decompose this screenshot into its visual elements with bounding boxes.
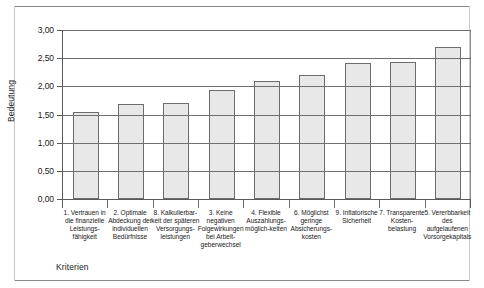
category-label: 6. Möglichst geringe Absicherungs-kosten bbox=[287, 209, 336, 241]
y-axis-tick bbox=[57, 115, 63, 116]
y-gridline bbox=[63, 86, 471, 87]
figure-top-rule bbox=[14, 6, 470, 7]
category-separator bbox=[334, 200, 335, 208]
y-gridline bbox=[63, 115, 471, 116]
category-separator bbox=[379, 200, 380, 208]
figure-bottom-rule bbox=[14, 280, 470, 281]
bar bbox=[73, 112, 99, 199]
y-axis-title: Bedeutung bbox=[6, 80, 16, 122]
y-axis-tick bbox=[57, 58, 63, 59]
y-axis-tick-label: 0,00 bbox=[38, 195, 54, 204]
y-gridline bbox=[63, 58, 471, 59]
y-axis-tick-label: 0,50 bbox=[38, 167, 54, 176]
category-separator bbox=[107, 200, 108, 208]
y-axis-tick-label: 1,50 bbox=[38, 110, 54, 119]
y-axis-tick bbox=[57, 86, 63, 87]
bar bbox=[209, 90, 235, 199]
y-gridline bbox=[63, 30, 471, 31]
y-axis-tick-label: 1,00 bbox=[38, 138, 54, 147]
category-label: 4. Flexible Auszahlungs-möglich-keiten bbox=[241, 209, 290, 233]
y-axis-tick bbox=[57, 143, 63, 144]
bar bbox=[299, 75, 325, 199]
category-separator bbox=[153, 200, 154, 208]
y-axis-tick-label: 2,50 bbox=[38, 54, 54, 63]
y-axis-tick-label: 2,00 bbox=[38, 82, 54, 91]
category-separator bbox=[62, 200, 63, 208]
category-label: 7. Transparente Kosten-belastung bbox=[377, 209, 426, 233]
y-axis-tick bbox=[57, 171, 63, 172]
figure-left-rule bbox=[14, 6, 15, 281]
category-axis: 1. Vertrauen in die finanzielle Leistung… bbox=[62, 200, 470, 252]
category-label: 2. Optimale Abdeckung der individuellen … bbox=[105, 209, 154, 241]
y-gridline bbox=[63, 143, 471, 144]
bar bbox=[163, 103, 189, 199]
bar bbox=[345, 63, 371, 199]
category-separator bbox=[289, 200, 290, 208]
plot-area: 0,000,501,001,502,002,503,00 bbox=[62, 30, 471, 200]
bar bbox=[118, 104, 144, 199]
y-axis-tick bbox=[57, 30, 63, 31]
category-separator bbox=[243, 200, 244, 208]
category-separator bbox=[425, 200, 426, 208]
y-gridline bbox=[63, 171, 471, 172]
chart-figure: Bedeutung 0,000,501,001,502,002,503,00 1… bbox=[0, 0, 484, 288]
category-label: 9. Inflatorische Sicherheit bbox=[332, 209, 381, 225]
bar bbox=[390, 62, 416, 199]
category-label: 1. Vertrauen in die finanzielle Leistung… bbox=[60, 209, 109, 241]
x-axis-title: Kriterien bbox=[56, 262, 89, 272]
category-separator bbox=[198, 200, 199, 208]
category-separator bbox=[470, 200, 471, 208]
y-axis-tick-label: 3,00 bbox=[38, 26, 54, 35]
category-label: 5. Vererbbarkeit des aufgelaufenen Vorso… bbox=[423, 209, 472, 241]
category-label: 3. Keine negativen Folgewirkungen bei Ar… bbox=[196, 209, 245, 249]
category-label: 8. Kalkulierbar-keit der späteren Versor… bbox=[151, 209, 200, 241]
bar bbox=[435, 47, 461, 199]
bar bbox=[254, 81, 280, 199]
